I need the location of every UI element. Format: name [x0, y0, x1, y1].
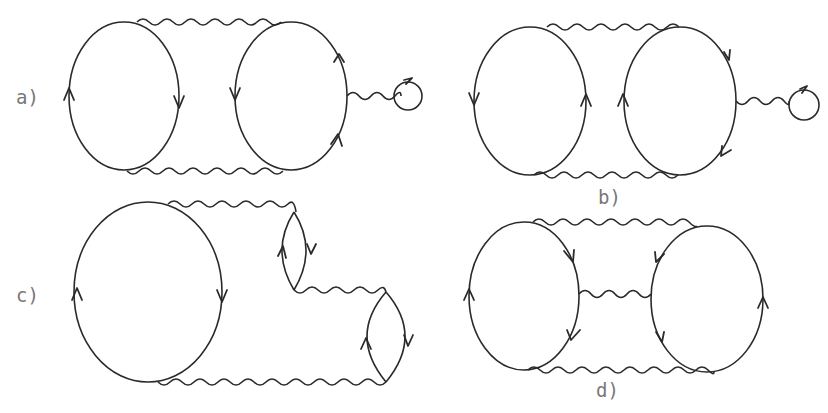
fermion-loop-right [235, 22, 347, 170]
tadpole-loop [394, 82, 422, 110]
panel-a: a) [16, 19, 422, 174]
photon-line-tadpole [347, 93, 401, 100]
photon-line-middle [579, 291, 651, 298]
fermion-loop-left [474, 27, 586, 175]
photon-line-middle [294, 287, 386, 293]
arrow-down-icon [721, 146, 731, 156]
fermion-loop-left [469, 222, 579, 370]
tadpole-loop [789, 90, 819, 120]
fermion-loop-left [69, 22, 179, 170]
panel-b: b) [469, 24, 819, 208]
lens-loop-2-left [367, 292, 386, 382]
panel-c-label: c) [16, 284, 39, 306]
photon-line-top [137, 19, 281, 25]
panel-c: c) [16, 201, 413, 385]
photon-line-tadpole [736, 98, 789, 105]
photon-line-top [168, 201, 296, 212]
panel-b-label: b) [598, 186, 621, 208]
fermion-loop-right [624, 27, 736, 175]
photon-line-bottom [127, 168, 283, 174]
lens-loop-2-right [386, 292, 405, 382]
panel-d-label: d) [596, 379, 619, 401]
arrow-up-icon [618, 94, 628, 106]
photon-line-top [547, 24, 679, 30]
photon-line-bottom [158, 379, 386, 385]
photon-line-bottom [534, 172, 678, 178]
arrow-down-icon [404, 335, 413, 346]
panel-d: d) [464, 219, 768, 401]
fermion-loop-large [74, 202, 222, 382]
arrow-up-icon [361, 338, 371, 349]
photon-line-top [533, 219, 697, 227]
arrow-down-icon [724, 50, 730, 60]
panel-a-label: a) [16, 86, 39, 108]
photon-line-bottom [528, 367, 714, 374]
feynman-diagram-canvas: a) b) c) [0, 0, 828, 413]
lens-loop-1-right [294, 212, 306, 290]
fermion-loop-right [651, 226, 763, 372]
arrow-down-icon [307, 244, 316, 254]
